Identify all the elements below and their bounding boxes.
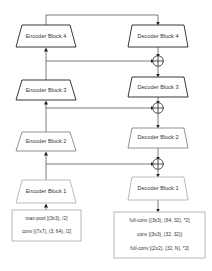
encoder-block-3: Encoder Block 3 (16, 80, 76, 100)
decoder-block-2-label: Decoder Block 2 (137, 134, 178, 140)
decoder-head-line-1: full-conv [(3x3), (64, 32), *2] (129, 218, 190, 223)
decoder-head-box: full-conv [(3x3), (64, 32), *2] conv [(3… (114, 212, 205, 258)
encoder-stem-line-2: conv [(7x7), (3, 64), /2] (22, 229, 72, 234)
encoder-block-2: Encoder Block 2 (16, 132, 76, 151)
decoder-block-4-label: Decoder Block 4 (137, 33, 178, 39)
encoder-block-3-label: Encoder Block 3 (26, 87, 67, 93)
add-node-4 (153, 56, 164, 67)
encoder-block-2-label: Encoder Block 2 (26, 138, 67, 144)
decoder-block-1: Decoder Block 1 (128, 177, 188, 200)
decoder-block-1-label: Decoder Block 1 (137, 185, 178, 191)
add-node-2 (153, 159, 164, 170)
encoder-block-4: Encoder Block 4 (16, 25, 76, 47)
architecture-diagram: Encoder Block 4 Encoder Block 3 Encoder … (0, 0, 212, 271)
add-node-3 (153, 103, 164, 114)
encoder-stem-line-1: max-pool [(3x3), /2] (25, 216, 68, 221)
decoder-block-3-label: Decoder Block 3 (137, 84, 178, 90)
encoder-block-1: Encoder Block 1 (16, 180, 76, 203)
decoder-block-4: Decoder Block 4 (128, 25, 188, 47)
encoder-block-4-label: Encoder Block 4 (26, 33, 67, 39)
plus-circle-icon (153, 56, 164, 67)
decoder-block-3: Decoder Block 3 (128, 77, 188, 97)
plus-circle-icon (153, 103, 164, 114)
decoder-block-2: Decoder Block 2 (128, 128, 188, 148)
connector-enc4-to-dec4 (46, 15, 158, 25)
encoder-block-1-label: Encoder Block 1 (26, 188, 67, 194)
decoder-head-line-3: full-conv [(2x2), (32, N), *2] (130, 246, 189, 251)
plus-circle-icon (153, 159, 164, 170)
encoder-stem-box: max-pool [(3x3), /2] conv [(7x7), (3, 64… (12, 210, 81, 241)
decoder-head-line-2: conv [(3x3), (32, 32)] (137, 232, 183, 237)
